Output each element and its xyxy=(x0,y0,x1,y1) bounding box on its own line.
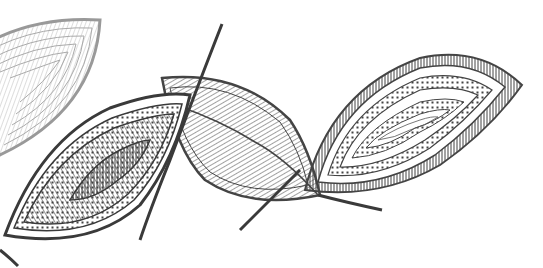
right-leaf-icon xyxy=(305,55,522,192)
leaf-illustration xyxy=(0,0,543,268)
